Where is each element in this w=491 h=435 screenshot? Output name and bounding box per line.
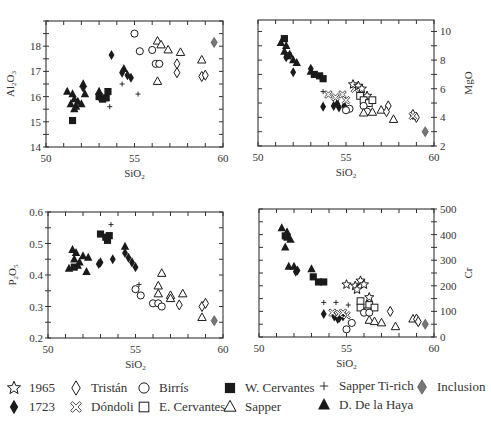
y-tick-label: 0.4 [29,269,43,281]
figure: 505560SiO21415161718Al2O3 505560SiO22468… [0,0,491,380]
x-tick-label: 60 [218,343,230,355]
legend-item-1723: 1723 [6,399,55,415]
y-tick-label: 200 [440,280,457,292]
legend-label: W. Cervantes [245,380,315,396]
x-tick-label: 55 [130,343,142,355]
plot-frame [259,209,434,337]
y-tick-label: 0.5 [29,238,43,250]
plus-icon [316,378,336,394]
diamond-open-icon [68,380,88,396]
y-tick-label: 4 [440,111,446,123]
legend-item-1965: 1965 [6,380,55,396]
y-tick-label: 0.2 [29,332,43,344]
y-tick-label: 10 [440,25,452,37]
y-tick-label: 17 [30,65,42,77]
legend-item-d-de-la-haya: D. De la Haya [316,397,413,413]
x-tick-label: 50 [41,152,53,164]
x-tick-label: 60 [218,152,230,164]
y-tick-label: 300 [440,254,457,266]
y-axis-title: P2O5 [6,264,20,286]
x-axis-title: SiO2 [124,167,145,181]
x-tick-label: 55 [129,152,141,164]
legend-label: Dóndoli [91,399,134,415]
y-tick-label: 18 [30,40,42,52]
y-tick-label: 0 [440,331,446,343]
y-tick-label: 2 [440,140,446,152]
diamond-filled-icon [6,399,26,415]
legend-item-tristan: Tristán [68,380,127,396]
y-tick-label: 16 [30,91,42,103]
y-tick-label: 100 [440,305,457,317]
y-tick-label: 6 [440,83,446,95]
y-tick-label: 500 [440,203,457,215]
x-tick-label: 50 [43,343,55,355]
square-filled-icon [222,380,242,396]
x-tick-label: 50 [254,342,266,354]
x-open-icon [68,399,88,415]
plot-frame [48,212,223,338]
y-axis-title: MgO [462,71,474,94]
diamond-gray-icon [414,379,434,395]
y-tick-label: 0.6 [29,206,43,218]
data-points [65,222,218,326]
x-axis-title: SiO2 [336,357,357,371]
chart-mgo: 505560SiO2246810MgO [253,20,475,180]
legend-item-e-cervantes: E. Cervantes [136,399,225,415]
legend-label: E. Cervantes [159,399,225,415]
legend-label: Sapper Ti-rich [339,378,414,394]
data-points [277,35,429,137]
legend-label: Birrís [159,380,189,396]
x-axis-title: SiO2 [336,166,357,180]
legend-label: Inclusion [437,379,485,395]
star-icon [6,380,26,396]
data-points [278,223,429,333]
x-tick-label: 55 [341,151,353,163]
x-tick-label: 50 [253,151,265,163]
legend: 1965 Tristán Birrís W. Cervantes Sapper … [6,380,491,420]
legend-label: Sapper [245,399,281,415]
x-tick-label: 60 [429,151,441,163]
square-open-icon [136,399,156,415]
legend-label: 1965 [29,380,55,396]
y-tick-label: 0.3 [29,301,43,313]
x-tick-label: 55 [341,342,353,354]
chart-al2o3: 505560SiO21415161718Al2O3 [4,21,229,181]
circle-open-icon [136,380,156,396]
y-axis-title: Cr [462,267,474,278]
plot-frame [46,21,223,147]
y-tick-label: 8 [440,54,446,66]
chart-p2o5: 505560SiO20.20.30.40.50.6P2O5 [6,206,229,372]
legend-item-inclusion: Inclusion [414,379,485,395]
chart-cr: 505560SiO20100200300400500Cr [254,203,475,371]
legend-label: 1723 [29,399,55,415]
x-axis-title: SiO2 [125,358,146,372]
legend-item-dondoli: Dóndoli [68,399,134,415]
legend-item-sapper-ti-rich: Sapper Ti-rich [316,378,414,394]
y-axis-title: Al2O3 [4,71,18,97]
legend-item-sapper: Sapper [222,399,281,415]
data-points [63,30,217,124]
x-tick-label: 60 [429,342,441,354]
triangle-open-icon [222,399,242,415]
y-tick-label: 15 [30,116,42,128]
legend-item-birris: Birrís [136,380,189,396]
triangle-filled-icon [316,397,336,413]
legend-item-w-cervantes: W. Cervantes [222,380,315,396]
legend-label: D. De la Haya [339,397,413,413]
legend-label: Tristán [91,380,127,396]
y-tick-label: 400 [440,229,457,241]
y-tick-label: 14 [30,141,42,153]
